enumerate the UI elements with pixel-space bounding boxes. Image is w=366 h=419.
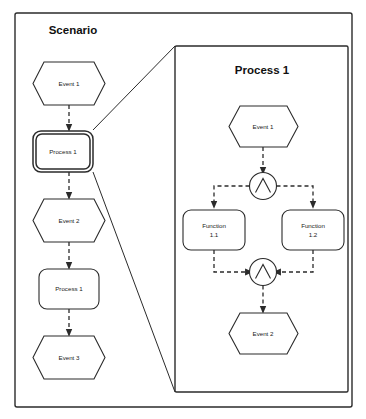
- svg-text:Event 1: Event 1: [253, 123, 275, 130]
- scenario-node-event-3[interactable]: Event 3: [33, 336, 105, 379]
- detail-node-function-1-2[interactable]: Function 1.2: [282, 210, 344, 250]
- scenario-node-event-2[interactable]: Event 2: [33, 199, 105, 242]
- svg-text:1.1: 1.1: [210, 231, 219, 238]
- detail-and-connector-join[interactable]: [250, 259, 277, 286]
- svg-text:1.2: 1.2: [309, 231, 318, 238]
- detail-and-connector-split[interactable]: [250, 173, 277, 200]
- svg-text:Event 1: Event 1: [59, 80, 81, 87]
- svg-text:Function: Function: [202, 222, 226, 229]
- svg-text:Process 1: Process 1: [55, 285, 83, 292]
- scenario-node-process-2[interactable]: Process 1: [39, 269, 99, 309]
- detail-node-event-1[interactable]: Event 1: [229, 106, 298, 147]
- scenario-node-process-1-highlighted[interactable]: Process 1: [33, 131, 93, 172]
- scenario-title: Scenario: [49, 24, 98, 36]
- svg-text:Event 2: Event 2: [59, 217, 81, 224]
- process-detail-title: Process 1: [235, 64, 290, 76]
- svg-text:Process 1: Process 1: [49, 148, 77, 155]
- scenario-node-event-1[interactable]: Event 1: [33, 62, 105, 105]
- detail-node-event-2[interactable]: Event 2: [229, 313, 298, 354]
- diagram-canvas: Scenario Process 1 Event 1 Process 1 Eve…: [0, 0, 366, 419]
- svg-text:Event 3: Event 3: [59, 354, 81, 361]
- detail-node-function-1-1[interactable]: Function 1.1: [183, 210, 245, 250]
- svg-text:Function: Function: [301, 222, 325, 229]
- svg-text:Event 2: Event 2: [253, 330, 275, 337]
